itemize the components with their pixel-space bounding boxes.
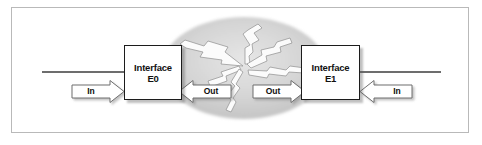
interface-e0-node: Interface E0 xyxy=(124,45,182,100)
interface-e0-line2: E0 xyxy=(147,73,158,84)
arrow-in-left xyxy=(72,81,124,103)
arrow-in-right xyxy=(360,81,412,103)
diagram-canvas xyxy=(0,0,482,145)
interface-e0-line1: Interface xyxy=(134,62,172,73)
interface-e1-node: Interface E1 xyxy=(301,45,360,100)
interface-e1-line1: Interface xyxy=(312,62,350,73)
diagram-figure: Interface E0 Interface E1 In Out Out In xyxy=(0,0,482,145)
interface-e1-line2: E1 xyxy=(325,73,336,84)
